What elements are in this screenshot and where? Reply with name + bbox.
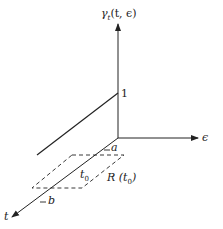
unit-line [37,93,118,155]
region-close: ) [132,171,136,184]
label-region: R (t0) [107,172,136,186]
vertical-axis-label: γt(t, ϵ) [101,8,137,22]
diagram-lines [0,0,223,229]
gamma-args: (t, ϵ) [110,7,136,20]
t-axis-label: t [4,211,8,222]
t-axis [12,138,118,217]
unit-mark-label: 1 [121,88,128,99]
epsilon-axis-label: ϵ [202,132,208,143]
gamma-symbol: γ [101,7,108,20]
diagram-canvas: γt(t, ϵ) 1 ϵ t a b t0 R (t0) [0,0,223,229]
t0-subscript: 0 [84,175,88,183]
label-a: a [111,142,118,153]
region-symbol: R (t [107,171,128,184]
label-b: b [48,195,55,206]
label-t0: t0 [80,169,89,183]
